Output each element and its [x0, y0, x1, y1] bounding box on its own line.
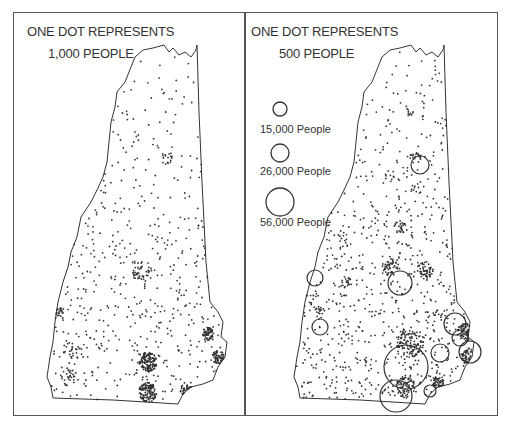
population-dot: [106, 348, 108, 350]
population-dot: [405, 90, 407, 92]
population-dot: [456, 357, 458, 359]
population-dot: [345, 242, 347, 244]
cluster-dot: [207, 332, 209, 334]
cluster-dot: [411, 336, 413, 338]
population-dot: [53, 351, 55, 353]
population-dot: [104, 207, 106, 209]
population-dot: [331, 382, 333, 384]
population-dot: [78, 336, 80, 338]
population-dot: [420, 181, 422, 183]
population-dot: [67, 309, 69, 311]
population-dot: [411, 273, 413, 275]
cluster-dot: [410, 154, 412, 156]
population-dot: [375, 360, 377, 362]
population-dot: [340, 246, 342, 248]
population-dot: [134, 261, 136, 263]
population-dot: [345, 319, 347, 321]
population-dot: [95, 209, 97, 211]
population-dot: [98, 274, 100, 276]
population-dot: [76, 261, 78, 263]
cluster-dot: [412, 385, 414, 387]
population-dot: [382, 303, 384, 305]
population-dot: [424, 266, 426, 268]
population-dot: [356, 284, 358, 286]
population-dot: [413, 276, 415, 278]
population-dot: [388, 236, 390, 238]
population-dot: [158, 77, 160, 79]
population-dot: [201, 220, 203, 222]
population-dot: [113, 210, 115, 212]
population-dot: [134, 81, 136, 83]
population-dot: [303, 397, 305, 399]
population-dot: [404, 358, 406, 360]
cluster-dot: [204, 329, 206, 331]
population-dot: [412, 237, 414, 239]
population-dot: [164, 360, 166, 362]
population-dot: [370, 359, 372, 361]
cluster-dot: [144, 392, 146, 394]
population-dot: [81, 353, 83, 355]
population-dot: [435, 69, 437, 71]
population-dot: [438, 207, 440, 209]
population-dot: [323, 371, 325, 373]
population-dot: [130, 310, 132, 312]
population-dot: [63, 331, 65, 333]
population-dot: [430, 240, 432, 242]
population-dot: [441, 216, 443, 218]
population-dot: [421, 375, 423, 377]
population-dot: [405, 190, 407, 192]
cluster-dot: [78, 348, 80, 350]
population-dot: [87, 225, 89, 227]
cluster-dot: [398, 230, 400, 232]
population-dot: [350, 243, 352, 245]
population-dot: [387, 170, 389, 172]
population-dot: [392, 280, 394, 282]
population-dot: [368, 227, 370, 229]
cluster-dot: [398, 338, 400, 340]
population-dot: [330, 230, 332, 232]
population-dot: [117, 306, 119, 308]
population-dot: [405, 106, 407, 108]
population-dot: [340, 230, 342, 232]
cluster-dot: [411, 114, 413, 116]
cluster-dot: [149, 398, 151, 400]
population-dot: [346, 389, 348, 391]
cluster-dot: [412, 162, 414, 164]
population-dot: [122, 147, 124, 149]
population-dot: [306, 350, 308, 352]
population-dot: [447, 198, 449, 200]
cluster-dot: [213, 332, 215, 334]
population-dot: [354, 210, 356, 212]
population-dot: [306, 295, 308, 297]
cluster-dot: [152, 386, 154, 388]
population-dot: [447, 318, 449, 320]
population-dot: [131, 345, 133, 347]
population-dot: [218, 324, 220, 326]
cluster-dot: [146, 370, 148, 372]
population-dot: [431, 214, 433, 216]
population-dot: [446, 322, 448, 324]
population-dot: [386, 195, 388, 197]
population-dot: [359, 321, 361, 323]
population-dot: [134, 159, 136, 161]
population-dot: [414, 271, 416, 273]
population-dot: [139, 302, 141, 304]
cluster-dot: [462, 326, 464, 328]
population-dot: [134, 322, 136, 324]
population-dot: [440, 123, 442, 125]
right-dot-map: [245, 12, 498, 416]
cluster-dot: [385, 271, 387, 273]
population-dot: [371, 171, 373, 173]
cluster-dot: [148, 272, 150, 274]
population-dot: [117, 134, 119, 136]
population-dot: [154, 269, 156, 271]
population-dot: [104, 257, 106, 259]
population-dot: [383, 280, 385, 282]
population-dot: [352, 268, 354, 270]
population-dot: [175, 80, 177, 82]
population-dot: [147, 82, 149, 84]
cluster-dot: [151, 400, 153, 402]
population-dot: [326, 388, 328, 390]
population-dot: [442, 285, 444, 287]
population-dot: [338, 333, 340, 335]
